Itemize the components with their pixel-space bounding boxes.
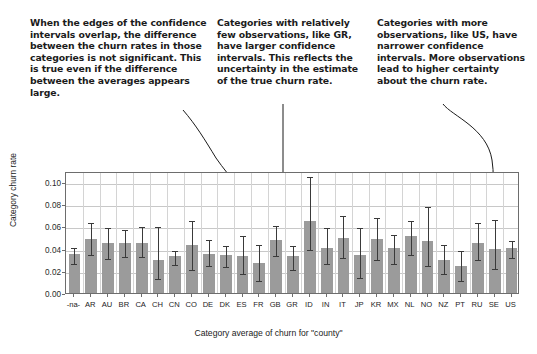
error-bar-cap-lower xyxy=(139,257,145,258)
error-bar xyxy=(74,248,75,264)
error-bar-cap-lower xyxy=(71,264,77,265)
error-bar xyxy=(310,177,311,250)
gridline-vertical xyxy=(436,173,437,293)
y-tick-label: 0.04 xyxy=(45,245,61,254)
x-tick-mark xyxy=(443,294,444,297)
x-tick-mark xyxy=(326,294,327,297)
y-tick-label: 0.02 xyxy=(45,267,61,276)
x-tick-mark xyxy=(157,294,158,297)
gridline-vertical xyxy=(83,173,84,293)
gridline-vertical xyxy=(503,173,504,293)
error-bar-cap-lower xyxy=(256,281,262,282)
y-tick-label: 0.08 xyxy=(45,201,61,210)
x-tick-mark xyxy=(376,294,377,297)
gridline-vertical xyxy=(301,173,302,293)
x-tick-label: RU xyxy=(471,300,482,309)
error-bar-cap-upper xyxy=(88,223,94,224)
gridline-vertical xyxy=(217,173,218,293)
error-bar-cap-upper xyxy=(324,228,330,229)
x-tick-mark xyxy=(124,294,125,297)
error-bar xyxy=(243,236,244,274)
error-bar-cap-upper xyxy=(240,236,246,237)
error-bar-cap-upper xyxy=(273,226,279,227)
x-tick-mark xyxy=(477,294,478,297)
gridline-vertical xyxy=(116,173,117,293)
chart-figure: When the edges of the confidence interva… xyxy=(0,0,537,354)
x-tick-mark xyxy=(309,294,310,297)
x-tick-mark xyxy=(460,294,461,297)
gridline-vertical xyxy=(167,173,168,293)
error-bar xyxy=(495,220,496,270)
x-tick-label: BR xyxy=(119,300,130,309)
error-bar-cap-upper xyxy=(189,221,195,222)
x-tick-label: CA xyxy=(135,300,146,309)
x-tick-label: NZ xyxy=(438,300,448,309)
x-tick-label: PT xyxy=(455,300,465,309)
error-bar-cap-upper xyxy=(155,227,161,228)
error-bar xyxy=(428,207,429,265)
error-bar-cap-lower xyxy=(105,259,111,260)
error-bar-cap-lower xyxy=(223,267,229,268)
y-tick-mark xyxy=(62,294,65,295)
x-tick-label: SE xyxy=(489,300,499,309)
error-bar-cap-upper xyxy=(290,246,296,247)
error-bar-cap-upper xyxy=(492,220,498,221)
gridline-vertical xyxy=(419,173,420,293)
gridline-vertical xyxy=(251,173,252,293)
x-tick-mark xyxy=(511,294,512,297)
gridline-vertical xyxy=(318,173,319,293)
x-tick-mark xyxy=(292,294,293,297)
x-tick-label: ID xyxy=(305,300,313,309)
x-tick-label: NO xyxy=(421,300,432,309)
error-bar xyxy=(108,228,109,259)
gridline-vertical xyxy=(369,173,370,293)
error-bar xyxy=(360,228,361,277)
error-bar-cap-lower xyxy=(189,270,195,271)
annotation-overlap: When the edges of the confidence interva… xyxy=(30,17,210,98)
x-tick-mark xyxy=(342,294,343,297)
error-bar-cap-lower xyxy=(240,274,246,275)
error-bar-cap-lower xyxy=(441,274,447,275)
error-bar-cap-lower xyxy=(324,264,330,265)
error-bar-cap-upper xyxy=(172,251,178,252)
gridline-vertical xyxy=(352,173,353,293)
x-tick-label: MX xyxy=(387,300,398,309)
error-bar xyxy=(226,246,227,267)
gridline-vertical xyxy=(335,173,336,293)
error-bar xyxy=(293,246,294,270)
error-bar xyxy=(343,216,344,259)
error-bar-cap-lower xyxy=(273,256,279,257)
gridline-vertical xyxy=(470,173,471,293)
error-bar xyxy=(327,228,328,264)
x-tick-mark xyxy=(393,294,394,297)
error-bar-cap-lower xyxy=(340,258,346,259)
error-bar-cap-upper xyxy=(340,216,346,217)
y-axis-title: Category churn rate xyxy=(8,130,18,250)
error-bar-cap-upper xyxy=(425,207,431,208)
error-bar-cap-upper xyxy=(475,223,481,224)
error-bar-cap-upper xyxy=(441,245,447,246)
error-bar-cap-upper xyxy=(307,177,313,178)
y-tick-mark xyxy=(62,205,65,206)
error-bar-cap-upper xyxy=(256,245,262,246)
x-tick-label: CH xyxy=(152,300,163,309)
x-tick-mark xyxy=(73,294,74,297)
gridline-vertical xyxy=(133,173,134,293)
error-bar-cap-lower xyxy=(290,270,296,271)
y-tick-mark xyxy=(62,250,65,251)
x-tick-label: IT xyxy=(339,300,346,309)
x-tick-label: IN xyxy=(322,300,330,309)
x-tick-label: KR xyxy=(371,300,382,309)
x-axis-title: Category average of churn for "county" xyxy=(0,328,537,338)
gridline-vertical xyxy=(184,173,185,293)
x-tick-label: AR xyxy=(85,300,96,309)
error-bar-cap-lower xyxy=(509,258,515,259)
x-tick-mark xyxy=(107,294,108,297)
error-bar-cap-lower xyxy=(458,281,464,282)
error-bar xyxy=(394,235,395,264)
error-bar-cap-lower xyxy=(391,264,397,265)
error-bar xyxy=(125,230,126,257)
x-tick-mark xyxy=(275,294,276,297)
x-tick-mark xyxy=(141,294,142,297)
gridline-vertical xyxy=(234,173,235,293)
